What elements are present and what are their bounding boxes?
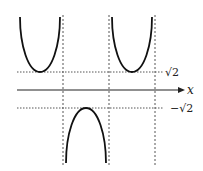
- x-axis-arrow-icon: [178, 87, 185, 93]
- sqrt2-label: √2: [165, 66, 179, 79]
- function-plot: √2 −√2 x: [0, 0, 203, 171]
- branch-right-up: [112, 17, 152, 72]
- branch-middle-down: [66, 108, 106, 163]
- x-axis: [17, 87, 185, 93]
- neg-sqrt2-label: −√2: [170, 102, 193, 115]
- branch-left-up: [20, 17, 60, 72]
- x-axis-label: x: [187, 83, 194, 97]
